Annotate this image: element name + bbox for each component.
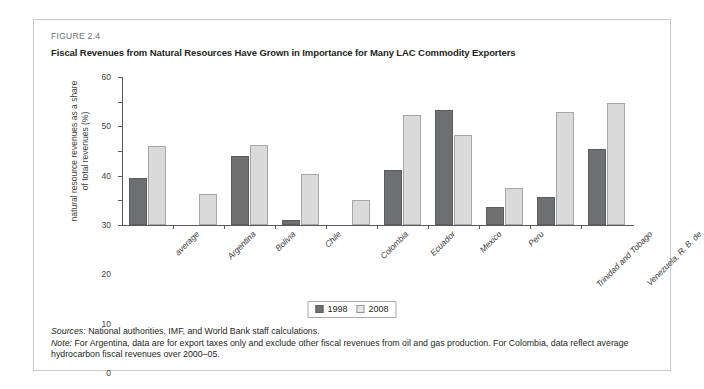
y-tick-60: 60	[118, 77, 122, 78]
y-tick-40: 40	[118, 126, 122, 127]
x-tick-2	[224, 225, 225, 229]
figure-title: Fiscal Revenues from Natural Resources H…	[51, 47, 515, 58]
bar-1998-mexico	[435, 110, 453, 225]
x-tick-4	[326, 225, 327, 229]
bar-2008-colombia	[352, 200, 370, 225]
x-tick-9	[581, 225, 582, 229]
x-tick-1	[173, 225, 174, 229]
note-text: For Argentina, data are for export taxes…	[51, 338, 629, 360]
sources-text: National authorities, IMF, and World Ban…	[86, 326, 320, 336]
bar-1998-peru	[486, 207, 504, 226]
bar-1998-average	[129, 178, 147, 225]
figure-panel: FIGURE 2.4 Fiscal Revenues from Natural …	[33, 19, 671, 371]
x-label-chile: Chile	[322, 229, 342, 249]
bar-1998-trinidad-and-tobago	[537, 197, 555, 225]
sources-line: Sources: National authorities, IMF, and …	[51, 326, 655, 338]
bar-2008-trinidad-and-tobago	[556, 112, 574, 225]
chart-legend: 19982008	[307, 301, 396, 318]
bar-2008-bolivia	[250, 145, 268, 225]
y-tick-50: 50	[118, 102, 122, 103]
y-tick-10: 10	[118, 200, 122, 201]
bar-2008-venezuela-r-b-de	[607, 103, 625, 225]
figure-number-label: FIGURE 2.4	[51, 31, 100, 41]
plot-area: 0102030405060	[122, 77, 632, 225]
legend-label-1998: 1998	[327, 304, 347, 314]
bar-1998-bolivia	[231, 156, 249, 225]
x-tick-6	[428, 225, 429, 229]
y-tick-20: 20	[118, 176, 122, 177]
legend-item-2008: 2008	[357, 304, 389, 314]
bar-2008-argentina	[199, 194, 217, 225]
x-label-peru: Peru	[526, 229, 545, 248]
y-tick-label-60: 60	[102, 72, 111, 82]
x-tick-3	[275, 225, 276, 229]
y-tick-label-20: 20	[102, 269, 111, 279]
y-tick-label-30: 30	[102, 220, 111, 230]
legend-label-2008: 2008	[369, 304, 389, 314]
y-tick-label-0: 0	[106, 368, 111, 378]
bar-2008-ecuador	[403, 115, 421, 225]
bar-2008-chile	[301, 174, 319, 225]
bar-1998-venezuela-r-b-de	[588, 149, 606, 225]
x-label-colombia: Colombia	[378, 229, 410, 261]
bar-2008-average	[148, 146, 166, 225]
x-tick-5	[377, 225, 378, 229]
legend-swatch-1998	[315, 305, 323, 313]
y-axis-title: natural resource revenues as a share of …	[69, 76, 91, 226]
x-label-mexico: Mexico	[477, 229, 503, 255]
x-tick-7	[479, 225, 480, 229]
x-label-average: average	[172, 229, 200, 257]
x-label-bolivia: Bolivia	[273, 229, 297, 253]
x-tick-8	[530, 225, 531, 229]
x-label-ecuador: Ecuador	[428, 229, 457, 258]
y-tick-label-40: 40	[102, 171, 111, 181]
x-label-argentina: Argentina	[225, 229, 257, 261]
legend-swatch-2008	[357, 305, 365, 313]
note-label: Note:	[51, 338, 72, 348]
sources-label: Sources:	[51, 326, 86, 336]
x-axis-ticks	[122, 225, 634, 230]
y-tick-30: 30	[118, 151, 122, 152]
bar-2008-peru	[505, 188, 523, 225]
note-line: Note: For Argentina, data are for export…	[51, 338, 655, 361]
x-label-venezuela-r-b-de: Venezuela, R. B. de	[644, 229, 703, 288]
legend-item-1998: 1998	[315, 304, 347, 314]
bar-1998-ecuador	[384, 170, 402, 226]
bar-2008-mexico	[454, 135, 472, 225]
figure-notes: Sources: National authorities, IMF, and …	[51, 326, 655, 361]
y-tick-label-50: 50	[102, 121, 111, 131]
